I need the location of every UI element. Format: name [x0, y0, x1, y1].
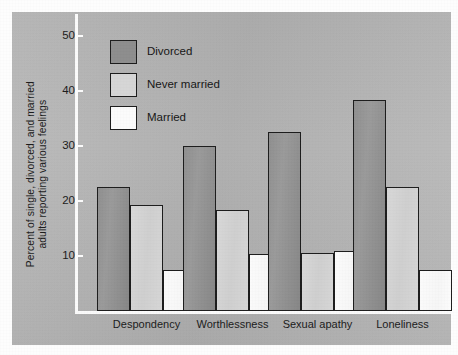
bar — [268, 132, 301, 311]
y-tick-mark — [75, 35, 83, 37]
y-tick-label: 10 — [49, 250, 75, 262]
bar — [419, 270, 452, 311]
y-tick-mark — [75, 200, 83, 202]
legend-swatch-divorced — [110, 40, 137, 64]
y-tick-mark — [75, 90, 83, 92]
bar — [130, 205, 163, 311]
x-axis-line — [75, 311, 451, 314]
y-axis-ticks: 1020304050 — [40, 0, 75, 355]
y-axis-line — [75, 14, 78, 314]
y-tick-label: 20 — [49, 195, 75, 207]
y-tick-mark — [75, 145, 83, 147]
bar — [216, 210, 249, 311]
bar — [97, 187, 130, 311]
y-tick-mark — [75, 255, 83, 257]
bar — [386, 187, 419, 311]
legend-swatch-never — [110, 73, 137, 97]
x-tick-label: Loneliness — [343, 318, 458, 330]
legend-label: Divorced — [147, 45, 192, 57]
chart-figure: Percent of single, divorced, and married… — [0, 0, 458, 355]
y-axis-title-line1: Percent of single, divorced, and married — [25, 44, 37, 304]
y-tick-label: 30 — [49, 140, 75, 152]
legend-label: Never married — [147, 78, 220, 90]
bar — [353, 100, 386, 311]
legend-label: Married — [147, 111, 186, 123]
y-tick-label: 40 — [49, 85, 75, 97]
bar — [183, 146, 216, 311]
legend-swatch-married — [110, 106, 137, 130]
bar — [301, 253, 334, 311]
y-tick-label: 50 — [49, 30, 75, 42]
